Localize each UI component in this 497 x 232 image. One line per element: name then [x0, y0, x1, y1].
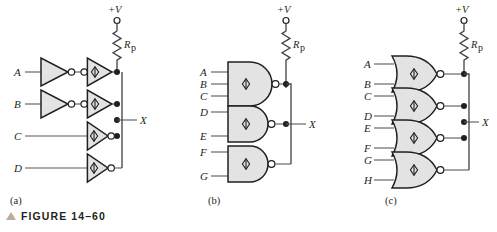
panel-a-pullup-subscript: p [131, 42, 136, 53]
triangle-marker-icon [6, 212, 16, 220]
panel-c-input-label-H: H [363, 174, 373, 186]
panel-a-inverter-B1-bubble [68, 101, 74, 107]
panel-c-pullup-resistor [460, 28, 468, 63]
panel-label-c: (c) [385, 195, 397, 207]
panel-b-circuit: +V R p A B C D E [199, 4, 317, 182]
panel-b-input-label-F: F [199, 146, 207, 158]
panel-c-input-label-B: B [364, 78, 371, 90]
panel-c-pullup-subscript: p [478, 42, 483, 53]
panel-b-nand-gate-1-bubble [272, 81, 279, 88]
panel-c-circuit: +V R p A B C D [363, 4, 490, 188]
panel-c-input-label-D: D [363, 110, 372, 122]
panel-label-b: (b) [208, 195, 221, 207]
panel-b-pullup-label: R [292, 39, 300, 50]
panel-a-node-1 [114, 69, 120, 75]
panel-a-circuit: +V R p A B [13, 4, 148, 182]
panel-a-oc-inverter-D-output-bubble [108, 165, 114, 171]
panel-a-input-label-A: A [13, 66, 21, 78]
panel-a-inverter-A1 [41, 58, 68, 86]
figure-caption: FIGURE 14–60 [6, 210, 106, 222]
panel-c-pullup-label: R [470, 39, 478, 50]
panel-a-input-label-B: B [14, 98, 21, 110]
panel-c-input-label-C: C [364, 90, 372, 102]
panel-a-pullup-resistor [113, 28, 121, 63]
panel-b-nand-gate-3 [228, 146, 268, 182]
panel-a-pullup-label: R [123, 39, 131, 50]
panel-a-node-3 [114, 133, 120, 139]
panel-b-input-label-D: D [199, 106, 208, 118]
panel-c-supply-label: +V [455, 4, 470, 15]
panel-b-output-label: X [308, 118, 317, 130]
circuit-diagram-canvas: +V R p A B [0, 0, 497, 232]
panel-b-supply-terminal [283, 18, 289, 24]
panel-b-pullup-subscript: p [300, 42, 305, 53]
panel-b-input-label-G: G [200, 170, 208, 182]
panel-c-supply-terminal [461, 18, 467, 24]
panel-a-output-label: X [139, 114, 148, 126]
panel-c-nor-gate-3-bubble [437, 135, 444, 142]
figure-14-60: +V R p A B [0, 0, 497, 232]
panel-c-nor-gate-4-bubble [437, 167, 444, 174]
panel-b-nand-gate-2 [228, 106, 268, 142]
panel-b-pullup-resistor [282, 28, 290, 63]
panel-b-supply-label: +V [277, 4, 292, 15]
panel-c-input-label-A: A [363, 58, 371, 70]
panel-c-node-2 [461, 103, 467, 109]
panel-label-a: (a) [10, 195, 22, 207]
panel-a-oc-inverter-A2-input-bubble [81, 69, 87, 75]
panel-a-supply-label: +V [108, 4, 123, 15]
panel-c-node-3 [461, 135, 467, 141]
panel-c-input-label-E: E [363, 122, 371, 134]
panel-c-nor-gate-1-bubble [437, 71, 444, 78]
panel-a-oc-inverter-C-output-bubble [108, 133, 114, 139]
panel-b-nand-gate-2-bubble [268, 121, 275, 128]
panel-a-inverter-B1 [41, 90, 68, 118]
panel-a-node-2 [114, 101, 120, 107]
panel-a-input-label-D: D [13, 162, 22, 174]
panel-b-input-label-B: B [200, 78, 207, 90]
panel-b-input-label-E: E [199, 130, 207, 142]
panel-b-nand-gate-3-bubble [268, 161, 275, 168]
panel-c-output-label: X [481, 116, 490, 128]
panel-a-inverter-A1-bubble [68, 69, 74, 75]
panel-c-input-label-G: G [364, 154, 372, 166]
panel-a-supply-terminal [114, 18, 120, 24]
panel-b-input-label-A: A [199, 66, 207, 78]
panel-b-input-label-C: C [200, 90, 208, 102]
panel-c-nor-gate-2-bubble [437, 103, 444, 110]
panel-c-input-label-F: F [363, 142, 371, 154]
figure-caption-text: FIGURE 14–60 [21, 210, 106, 222]
panel-a-oc-inverter-B2-input-bubble [81, 101, 87, 107]
panel-a-input-label-C: C [14, 130, 22, 142]
